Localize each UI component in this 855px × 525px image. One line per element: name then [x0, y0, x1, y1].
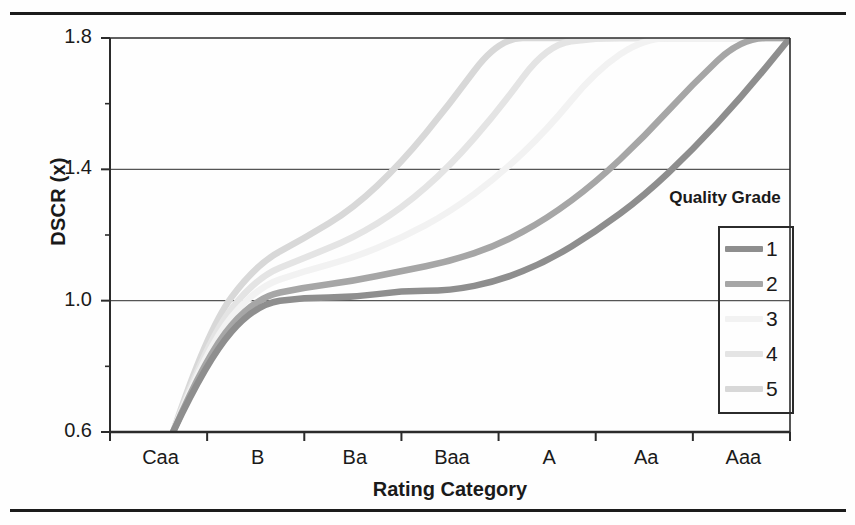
x-tick-label: Aaa: [693, 446, 794, 469]
legend-item-4[interactable]: 4: [720, 339, 792, 369]
legend-label-1: 1: [766, 234, 790, 264]
legend-box: 12345: [718, 226, 794, 414]
series-line-5: [173, 38, 790, 432]
legend-title: Quality Grade: [645, 188, 805, 208]
y-tick-label: 1.0: [32, 288, 92, 311]
legend-item-5[interactable]: 5: [720, 374, 792, 404]
x-tick-label: Aa: [596, 446, 697, 469]
y-tick-label: 1.4: [32, 156, 92, 179]
legend-swatch-1: [725, 246, 763, 252]
legend-label-5: 5: [766, 374, 790, 404]
x-tick-label: B: [207, 446, 308, 469]
y-axis-title: DSCR (x): [47, 122, 70, 282]
legend-swatch-3: [725, 316, 763, 322]
legend-item-3[interactable]: 3: [720, 304, 792, 334]
legend-item-2[interactable]: 2: [720, 269, 792, 299]
x-axis-title: Rating Category: [110, 478, 790, 501]
x-tick-label: A: [499, 446, 600, 469]
legend-swatch-2: [725, 281, 763, 287]
figure-container: DSCR (x) Rating Category 0.61.01.41.8 Ca…: [0, 0, 855, 525]
series-line-3: [173, 38, 790, 432]
y-tick-label: 1.8: [32, 25, 92, 48]
legend-swatch-5: [725, 386, 763, 392]
x-tick-label: Caa: [110, 446, 211, 469]
x-tick-label: Ba: [304, 446, 405, 469]
legend-label-4: 4: [766, 339, 790, 369]
legend-label-3: 3: [766, 304, 790, 334]
legend-item-1[interactable]: 1: [720, 234, 792, 264]
series-line-2: [173, 38, 790, 432]
series-line-4: [173, 38, 790, 432]
y-tick-label: 0.6: [32, 419, 92, 442]
legend-swatch-4: [725, 351, 763, 357]
legend-label-2: 2: [766, 269, 790, 299]
x-tick-label: Baa: [401, 446, 502, 469]
series-line-1: [173, 38, 790, 432]
